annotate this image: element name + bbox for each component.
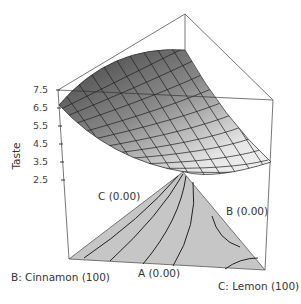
label-c-zero: C (0.00) <box>98 190 140 202</box>
base-simplex <box>69 172 265 270</box>
response-surface <box>40 30 280 176</box>
z-tick-2-5: 2.5 <box>18 174 48 185</box>
z-tick-4-5: 4.5 <box>18 138 48 149</box>
z-tick-5-5: 5.5 <box>18 120 48 131</box>
label-a-zero: A (0.00) <box>138 267 180 279</box>
z-tick-6-5: 6.5 <box>18 102 48 113</box>
mixture-surface-plot <box>0 0 301 304</box>
z-tick-7-5: 7.5 <box>18 84 48 95</box>
label-b-cinnamon: B: Cinnamon (100) <box>11 271 110 283</box>
label-c-lemon: C: Lemon (100) <box>218 280 299 292</box>
label-b-zero: B (0.00) <box>226 205 268 217</box>
z-tick-3-5: 3.5 <box>18 156 48 167</box>
